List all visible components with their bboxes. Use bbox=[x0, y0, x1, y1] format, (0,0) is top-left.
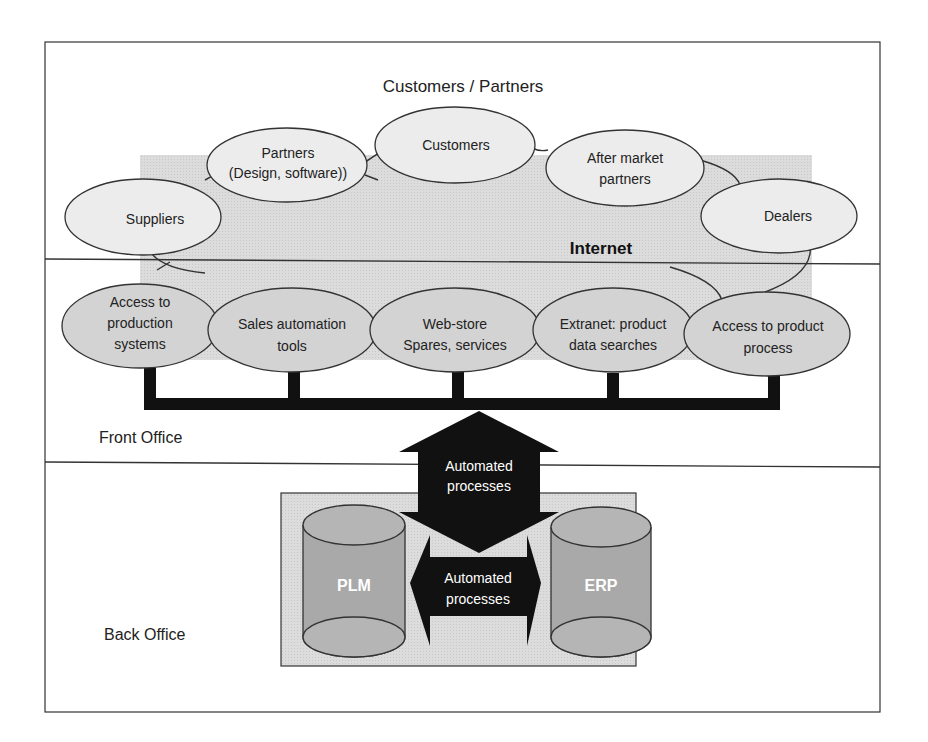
label-production-3: systems bbox=[114, 336, 165, 352]
label-erp: ERP bbox=[585, 577, 618, 594]
label-production-1: Access to bbox=[110, 294, 171, 310]
label-customers: Customers bbox=[422, 137, 490, 153]
label-webstore-2: Spares, services bbox=[403, 337, 506, 353]
label-product-process-1: Access to product bbox=[712, 318, 823, 334]
label-partners-1: Partners bbox=[262, 145, 315, 161]
label-vertical-arrow-2: processes bbox=[447, 478, 511, 494]
label-plm: PLM bbox=[337, 577, 371, 594]
zone-label-front-office: Front Office bbox=[99, 429, 182, 446]
label-horizontal-arrow-2: processes bbox=[446, 591, 510, 607]
label-sales-1: Sales automation bbox=[238, 316, 346, 332]
zone-label-customers-partners: Customers / Partners bbox=[383, 77, 544, 96]
zone-label-back-office: Back Office bbox=[104, 626, 186, 643]
internet-label: Internet bbox=[570, 239, 633, 258]
label-after-market-2: partners bbox=[599, 171, 650, 187]
label-sales-2: tools bbox=[277, 338, 307, 354]
label-after-market-1: After market bbox=[587, 150, 663, 166]
label-product-process-2: process bbox=[743, 340, 792, 356]
label-vertical-arrow-1: Automated bbox=[445, 458, 513, 474]
node-after-market[interactable] bbox=[546, 130, 704, 206]
diagram-canvas: Customers / Partners Suppliers Partners … bbox=[0, 0, 928, 742]
label-webstore-1: Web-store bbox=[423, 316, 488, 332]
label-partners-2: (Design, software)) bbox=[229, 165, 347, 181]
label-extranet-1: Extranet: product bbox=[560, 316, 667, 332]
label-suppliers: Suppliers bbox=[126, 211, 184, 227]
label-horizontal-arrow-1: Automated bbox=[444, 570, 512, 586]
node-product-process[interactable] bbox=[684, 292, 850, 376]
label-extranet-2: data searches bbox=[569, 337, 657, 353]
label-dealers: Dealers bbox=[764, 208, 812, 224]
label-production-2: production bbox=[107, 315, 172, 331]
